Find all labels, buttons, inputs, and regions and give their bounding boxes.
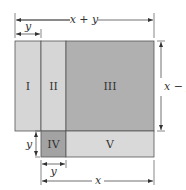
region-label-IV: IV [47,138,60,151]
dim-top-left: y [24,20,32,33]
square-decomposition-diagram: I II III IV V x + y y x − y y y x [0,0,186,190]
region-label-III: III [103,80,116,93]
dim-right-height: x − y [164,80,186,93]
region-label-V: V [105,138,115,151]
dim-left-bottom-height: y [25,138,33,151]
region-label-I: I [26,80,30,93]
dim-bottom-long: x [95,174,102,187]
region-label-II: II [49,80,58,93]
dim-bottom-short: y [49,165,57,178]
dim-top-width: x + y [70,13,99,26]
